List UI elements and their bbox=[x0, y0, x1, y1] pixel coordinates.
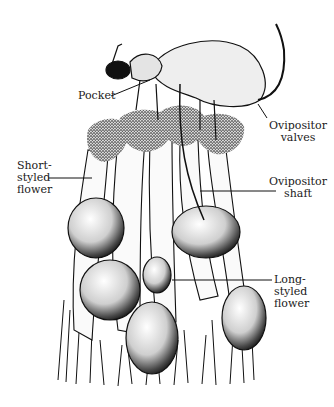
label-ovipositor-valves: Ovipositor valves bbox=[266, 120, 330, 144]
ovipositor-valves-leader bbox=[258, 104, 267, 118]
label-short-styled-flower: Short- styled flower bbox=[17, 160, 52, 196]
label-ovipositor-shaft: Ovipositor shaft bbox=[266, 176, 330, 200]
label-pocket: Pocket bbox=[78, 90, 115, 102]
fig-wasp-illustration bbox=[0, 0, 334, 407]
pocket-leader bbox=[111, 80, 150, 96]
label-long-styled-flower: Long- styled flower bbox=[274, 274, 309, 310]
